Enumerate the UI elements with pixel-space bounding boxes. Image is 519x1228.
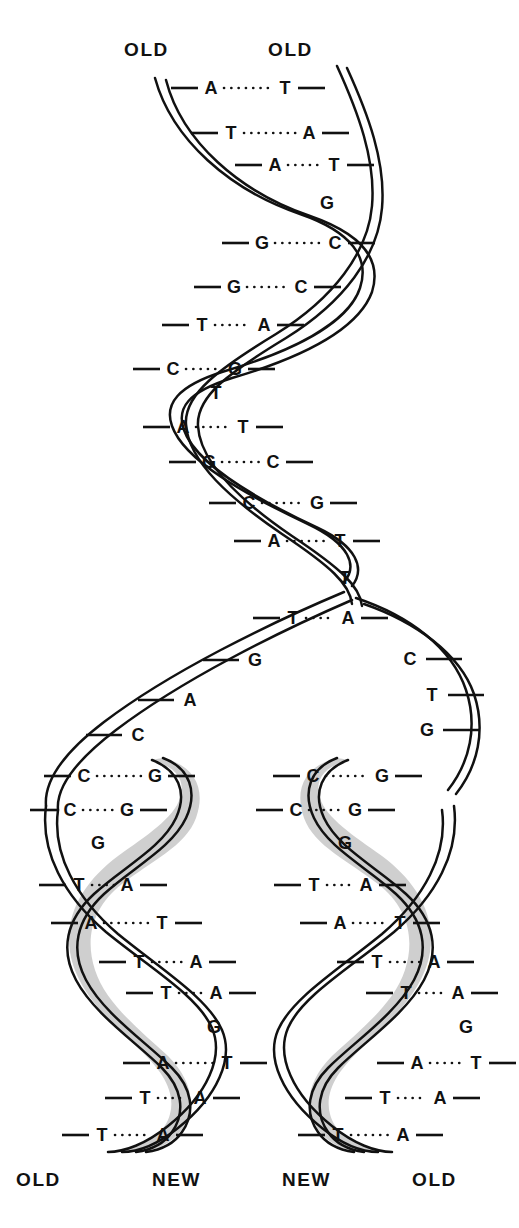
parent-base-right-12: T: [335, 531, 346, 551]
daughter-left-base-left-1: C: [64, 800, 77, 820]
fork-base-right-0: A: [342, 608, 355, 628]
daughter-left-rung-8: AT: [123, 1053, 267, 1073]
daughter-left-base-right-9: A: [194, 1088, 207, 1108]
daughter-left-base-left-10: T: [97, 1125, 108, 1145]
daughter-left-base-right-4: T: [157, 913, 168, 933]
daughter-left-base-right-5: A: [190, 952, 203, 972]
daughter-right-base-left-5: T: [372, 952, 383, 972]
parent-strand-b-outer: [186, 66, 373, 604]
fork-right-free-base-0: C: [404, 649, 417, 669]
parent-base-right-7: G: [228, 359, 242, 379]
daughter-left-base-left-5: T: [134, 952, 145, 972]
parent-base-right-11: G: [310, 493, 324, 513]
fork-right-free-base-2: G: [420, 720, 434, 740]
label-new-bottom-left: NEW: [152, 1169, 201, 1190]
daughter-left-base-right-8: T: [222, 1053, 233, 1073]
parent-backbone-group: [155, 66, 383, 606]
daughter-right-base-right-8: T: [471, 1053, 482, 1073]
parent-rung-9: AT: [143, 417, 283, 437]
daughter-right-base-left-1: C: [290, 800, 303, 820]
daughter-left-base-left-4: A: [85, 913, 98, 933]
daughter-right-rung-7: G: [459, 1017, 473, 1037]
daughter-left-base-right-10: A: [157, 1125, 170, 1145]
parent-base-right-1: A: [303, 123, 316, 143]
fork-left-free-base-2: C: [132, 725, 145, 745]
daughter-right-base-left-4: A: [334, 913, 347, 933]
daughter-left-rung-5: TA: [99, 952, 236, 972]
parent-base-left-11: C: [243, 493, 256, 513]
daughter-right-rung-9: TA: [345, 1088, 480, 1108]
label-old-bottom-right: OLD: [412, 1169, 457, 1190]
parent-base-single-8: T: [211, 383, 222, 403]
daughter-right-base-right-10: A: [397, 1125, 410, 1145]
parent-base-left-0: A: [205, 78, 218, 98]
parent-base-right-5: C: [295, 277, 308, 297]
parent-base-left-9: A: [177, 417, 190, 437]
daughter-left-base-right-3: A: [121, 875, 134, 895]
label-old-top-right: OLD: [268, 39, 313, 60]
parent-base-right-2: T: [329, 155, 340, 175]
daughter-right-base-left-3: T: [309, 875, 320, 895]
daughter-right-base-left-9: T: [380, 1088, 391, 1108]
daughter-right-base-right-3: A: [360, 875, 373, 895]
label-new-bottom-right: NEW: [282, 1169, 331, 1190]
daughter-left-rung-2: G: [91, 833, 105, 853]
daughter-left-base-left-6: T: [161, 983, 172, 1003]
fork-left-free-base-0: G: [248, 650, 262, 670]
daughter-left-base-left-9: T: [140, 1088, 151, 1108]
parent-base-left-7: C: [167, 359, 180, 379]
parent-rung-5: GC: [194, 277, 341, 297]
daughter-left-rung-1: CG: [30, 800, 167, 820]
parent-base-right-6: A: [258, 315, 271, 335]
fork-base-left-0: T: [288, 608, 299, 628]
daughter-left-base-left-3: T: [74, 875, 85, 895]
daughter-right-base-right-9: A: [434, 1088, 447, 1108]
parent-base-right-4: C: [329, 233, 342, 253]
parent-base-left-4: G: [255, 233, 269, 253]
parent-rung-6: TA: [162, 315, 304, 335]
fork-left-free-0: G: [203, 650, 262, 670]
daughter-right-base-single-2: G: [338, 833, 352, 853]
daughter-right-base-left-8: A: [411, 1053, 424, 1073]
base-pairs-layer: ATTAATGGCGCTACGTATGCCGATTTAGACCTGCGCGGTA…: [30, 78, 516, 1145]
fork-left-free-base-1: A: [184, 690, 197, 710]
parent-base-single-13: T: [340, 568, 351, 588]
parent-base-left-6: T: [197, 315, 208, 335]
daughter-left-base-right-6: A: [210, 983, 223, 1003]
label-old-top-left: OLD: [124, 39, 169, 60]
daughter-left-base-right-1: G: [120, 800, 134, 820]
daughter-left-base-left-0: C: [78, 766, 91, 786]
parent-rung-8: T: [211, 383, 222, 403]
daughter-right-base-left-0: C: [307, 766, 320, 786]
daughter-right-rung-6: TA: [366, 983, 498, 1003]
daughter-right-base-right-5: A: [428, 952, 441, 972]
daughter-right-rung-2: G: [338, 833, 352, 853]
parent-rung-3: G: [320, 193, 334, 213]
parent-rung-10: GC: [169, 452, 313, 472]
parent-rung-2: AT: [235, 155, 374, 175]
label-old-bottom-left: OLD: [16, 1169, 61, 1190]
daughter-right-base-right-0: G: [375, 766, 389, 786]
daughter-right-base-right-1: G: [348, 800, 362, 820]
parent-base-left-1: T: [226, 123, 237, 143]
parent-base-left-12: A: [268, 531, 281, 551]
daughter-left-base-single-2: G: [91, 833, 105, 853]
daughter-right-base-right-6: A: [452, 983, 465, 1003]
parent-strand-b-inner: [198, 68, 383, 606]
daughter-right-rung-0: CG: [273, 766, 422, 786]
daughter-left-rung-7: G: [207, 1017, 221, 1037]
parent-rung-0: AT: [171, 78, 325, 98]
dna-diagram-canvas: ATTAATGGCGCTACGTATGCCGATTTAGACCTGCGCGGTA…: [0, 0, 519, 1228]
parent-base-single-3: G: [320, 193, 334, 213]
parent-base-right-9: T: [238, 417, 249, 437]
parent-base-left-2: A: [269, 155, 282, 175]
daughter-right-rung-8: AT: [377, 1053, 516, 1073]
parent-base-left-5: G: [227, 277, 241, 297]
daughter-right-base-right-4: T: [395, 913, 406, 933]
daughter-left-base-left-8: A: [157, 1053, 170, 1073]
dna-replication-figure: ATTAATGGCGCTACGTATGCCGATTTAGACCTGCGCGGTA…: [0, 0, 519, 1228]
parent-rung-13: T: [340, 568, 351, 588]
daughter-left-base-right-0: G: [148, 766, 162, 786]
parent-rung-1: TA: [191, 123, 349, 143]
parent-rung-12: AT: [234, 531, 380, 551]
